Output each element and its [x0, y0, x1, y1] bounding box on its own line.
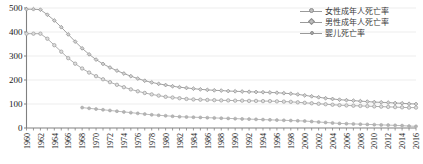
- svg-text:1986: 1986: [204, 133, 213, 149]
- svg-text:1988: 1988: [217, 133, 226, 149]
- svg-text:2008: 2008: [357, 133, 366, 149]
- svg-text:1970: 1970: [92, 133, 101, 149]
- x-tick-labels: 1960196219641966196819701972197419761978…: [23, 133, 422, 149]
- svg-text:1984: 1984: [190, 133, 199, 149]
- svg-text:2006: 2006: [343, 133, 352, 149]
- y-tick-labels: 0100200300400500: [9, 3, 23, 133]
- series-lines: [25, 7, 418, 128]
- svg-text:1998: 1998: [287, 133, 296, 149]
- svg-text:1996: 1996: [273, 133, 282, 149]
- svg-text:2004: 2004: [329, 133, 338, 149]
- svg-text:2012: 2012: [384, 133, 393, 149]
- svg-text:1964: 1964: [51, 133, 60, 149]
- svg-text:1966: 1966: [64, 133, 73, 149]
- svg-text:1992: 1992: [245, 133, 254, 149]
- svg-text:2000: 2000: [301, 133, 310, 149]
- svg-text:500: 500: [9, 3, 23, 13]
- svg-text:1994: 1994: [259, 133, 268, 149]
- svg-text:1968: 1968: [78, 133, 87, 149]
- svg-text:400: 400: [9, 27, 23, 37]
- svg-text:1960: 1960: [23, 133, 32, 149]
- chart-canvas: 1960196219641966196819701972197419761978…: [0, 0, 423, 164]
- y-axis: [24, 7, 27, 128]
- svg-text:100: 100: [9, 99, 23, 109]
- svg-text:2002: 2002: [315, 133, 324, 149]
- svg-text:2016: 2016: [412, 133, 421, 149]
- svg-text:1976: 1976: [134, 133, 143, 149]
- svg-text:300: 300: [9, 51, 23, 61]
- svg-text:1972: 1972: [106, 133, 115, 149]
- svg-text:1978: 1978: [148, 133, 157, 149]
- svg-text:0: 0: [18, 123, 23, 133]
- svg-text:1974: 1974: [120, 133, 129, 149]
- svg-text:1982: 1982: [176, 133, 185, 149]
- mortality-rate-line-chart: 1960196219641966196819701972197419761978…: [0, 0, 423, 164]
- svg-text:1980: 1980: [162, 133, 171, 149]
- x-axis: [27, 128, 417, 131]
- svg-text:2014: 2014: [398, 133, 407, 149]
- svg-text:2010: 2010: [370, 133, 379, 149]
- svg-text:1962: 1962: [37, 133, 46, 149]
- svg-text:200: 200: [9, 75, 23, 85]
- svg-text:1990: 1990: [231, 133, 240, 149]
